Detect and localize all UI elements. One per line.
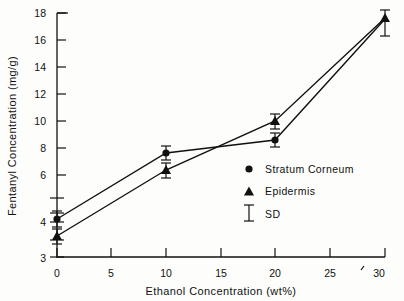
y-tick-label-18: 18 — [34, 7, 46, 19]
x-tick-label-10: 10 — [160, 267, 172, 279]
x-tick-label-0: 0 — [54, 267, 60, 279]
data-point-circle — [53, 215, 60, 222]
y-tick-label-6: 6 — [40, 169, 46, 181]
y-tick-label-3: 3 — [40, 252, 46, 264]
chart-figure: 18 16 14 12 10 8 6 4 3 Fentanyl Concentr… — [0, 0, 404, 301]
x-tick-label-30: 30 — [373, 267, 385, 279]
circle-marker-icon — [245, 165, 252, 172]
x-tick-label-15: 15 — [215, 267, 227, 279]
y-tick-label-4: 4 — [40, 216, 46, 228]
x-axis-title: Ethanol Concentration (wt%) — [146, 285, 297, 297]
x-tick-label-5: 5 — [108, 267, 114, 279]
x-tick-label-20: 20 — [269, 267, 281, 279]
y-axis-title: Fentanyl Concentration (mg/g) — [6, 56, 18, 216]
legend-label-epidermis: Epidermis — [265, 185, 315, 197]
y-tick-label-14: 14 — [34, 61, 46, 73]
fentanyl-concentration-line-chart: 18 16 14 12 10 8 6 4 3 Fentanyl Concentr… — [0, 0, 404, 301]
data-point-circle — [162, 149, 169, 156]
legend-label-sd: SD — [265, 208, 280, 220]
y-tick-label-12: 12 — [34, 88, 46, 100]
y-tick-label-8: 8 — [40, 142, 46, 154]
chart-background — [0, 0, 404, 301]
y-tick-label-10: 10 — [34, 115, 46, 127]
data-point-circle — [271, 136, 278, 143]
x-tick-label-25: 25 — [324, 267, 336, 279]
legend-label-stratum-corneum: Stratum Corneum — [265, 163, 354, 175]
y-tick-label-16: 16 — [34, 34, 46, 46]
